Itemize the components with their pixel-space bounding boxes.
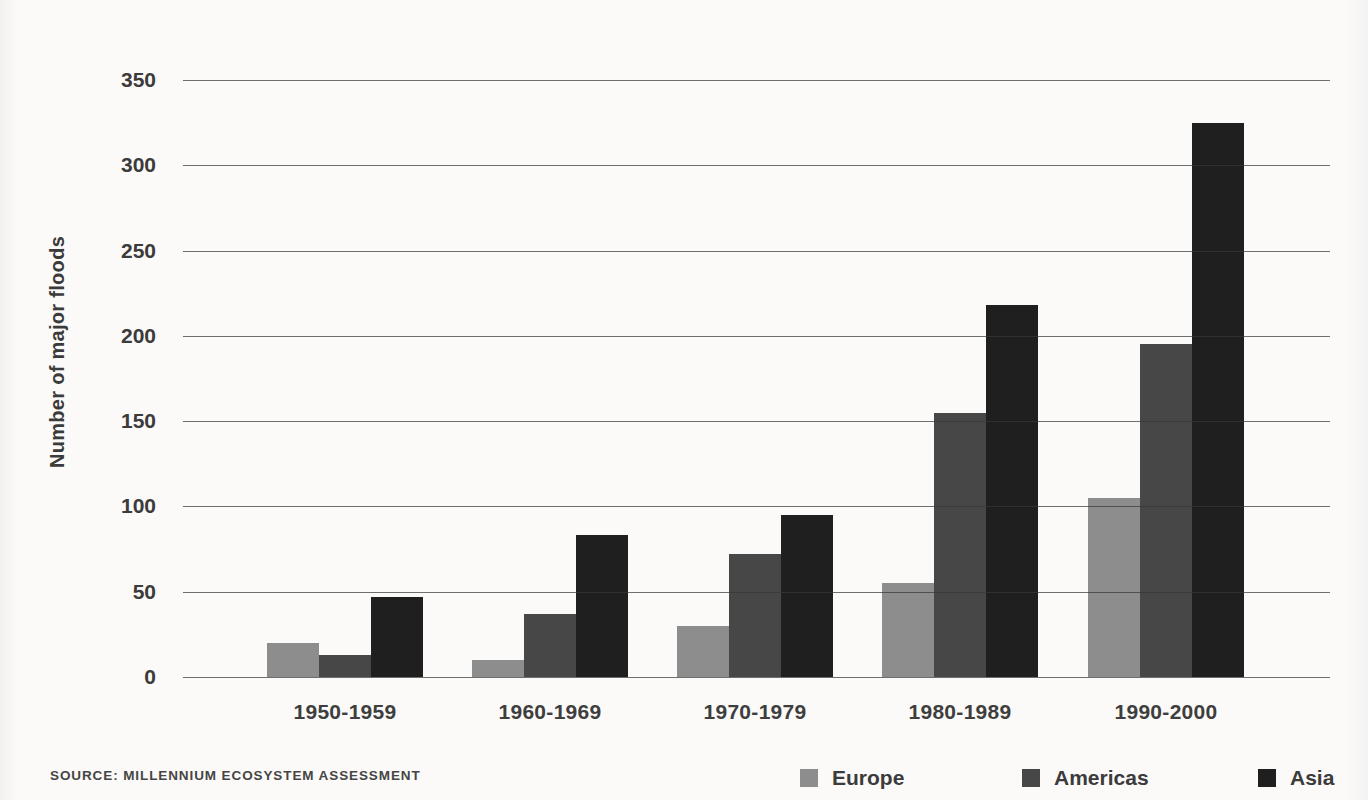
source-note: SOURCE: MILLENNIUM ECOSYSTEM ASSESSMENT bbox=[50, 768, 421, 783]
gridline-350 bbox=[183, 80, 1330, 81]
gridline-250 bbox=[183, 251, 1330, 252]
x-tick-label-1970-1979: 1970-1979 bbox=[670, 700, 840, 724]
gridline-0 bbox=[183, 677, 1330, 678]
x-tick-label-1980-1989: 1980-1989 bbox=[875, 700, 1045, 724]
legend-swatch-europe bbox=[800, 769, 818, 787]
bar-americas-1970-1979 bbox=[729, 554, 781, 677]
gridline-150 bbox=[183, 421, 1330, 422]
legend-item-europe: Europe bbox=[800, 769, 904, 787]
bar-asia-1970-1979 bbox=[781, 515, 833, 677]
y-tick-label-100: 100 bbox=[60, 495, 156, 517]
x-tick-label-1990-2000: 1990-2000 bbox=[1081, 700, 1251, 724]
bar-asia-1960-1969 bbox=[576, 535, 628, 677]
y-tick-label-50: 50 bbox=[60, 581, 156, 603]
bar-europe-1950-1959 bbox=[267, 643, 319, 677]
bar-europe-1980-1989 bbox=[882, 583, 934, 677]
gridline-100 bbox=[183, 506, 1330, 507]
gridline-200 bbox=[183, 336, 1330, 337]
legend-swatch-americas bbox=[1022, 769, 1040, 787]
y-tick-label-150: 150 bbox=[60, 410, 156, 432]
bar-asia-1980-1989 bbox=[986, 305, 1038, 677]
y-tick-label-300: 300 bbox=[60, 154, 156, 176]
legend-label-americas: Americas bbox=[1054, 769, 1149, 787]
bar-americas-1950-1959 bbox=[319, 655, 371, 677]
gridline-50 bbox=[183, 592, 1330, 593]
legend-item-asia: Asia bbox=[1258, 769, 1334, 787]
y-axis-title: Number of major floods bbox=[46, 236, 69, 468]
bar-asia-1950-1959 bbox=[371, 597, 423, 677]
y-tick-label-250: 250 bbox=[60, 240, 156, 262]
bar-americas-1980-1989 bbox=[934, 413, 986, 677]
legend-item-americas: Americas bbox=[1022, 769, 1149, 787]
legend-label-europe: Europe bbox=[832, 769, 904, 787]
legend-swatch-asia bbox=[1258, 769, 1276, 787]
bar-europe-1960-1969 bbox=[472, 660, 524, 677]
bar-europe-1970-1979 bbox=[677, 626, 729, 677]
bar-americas-1960-1969 bbox=[524, 614, 576, 677]
bar-asia-1990-2000 bbox=[1192, 123, 1244, 677]
gridline-300 bbox=[183, 165, 1330, 166]
flood-bar-chart: Number of major floods SOURCE: MILLENNIU… bbox=[0, 0, 1368, 800]
legend-label-asia: Asia bbox=[1290, 769, 1334, 787]
y-tick-label-350: 350 bbox=[60, 69, 156, 91]
x-tick-label-1950-1959: 1950-1959 bbox=[260, 700, 430, 724]
y-tick-label-200: 200 bbox=[60, 325, 156, 347]
y-tick-label-0: 0 bbox=[60, 666, 156, 688]
x-tick-label-1960-1969: 1960-1969 bbox=[465, 700, 635, 724]
bar-europe-1990-2000 bbox=[1088, 498, 1140, 677]
bar-americas-1990-2000 bbox=[1140, 344, 1192, 677]
